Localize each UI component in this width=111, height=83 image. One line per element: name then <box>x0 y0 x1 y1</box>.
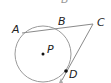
label-c: C <box>97 16 105 29</box>
geometry-diagram: B A B C P D <box>0 0 111 83</box>
label-p: P <box>47 43 54 56</box>
center-point-p <box>42 53 45 56</box>
label-b: B <box>58 15 66 28</box>
label-a: A <box>11 23 20 36</box>
label-d: D <box>69 68 77 81</box>
tangent-point-d <box>64 69 68 73</box>
cut-off-label: B <box>61 0 69 6</box>
